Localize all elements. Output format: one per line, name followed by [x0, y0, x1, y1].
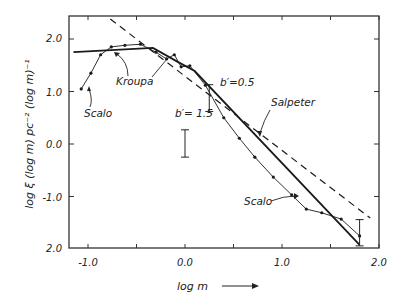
data-point [253, 156, 256, 159]
y-tick-label: 0.0 [46, 139, 62, 150]
y-tick-label: 2.0 [46, 243, 62, 254]
data-point [320, 211, 323, 214]
data-point [340, 217, 343, 220]
annotation-b-1.5: b′= 1.5 [175, 107, 213, 119]
data-point [305, 208, 308, 211]
data-point [180, 65, 183, 68]
data-point [173, 53, 176, 56]
annotation-b-0.5: b′=0.5 [220, 76, 255, 88]
annotation-scalo-left: Scalo [84, 107, 112, 119]
x-axis-arrow [222, 283, 259, 289]
annotation-scalo-right: Scalo [244, 195, 272, 207]
data-point [80, 87, 83, 90]
data-point [123, 44, 126, 47]
data-point [154, 51, 157, 54]
y-tick-label: 2.0 [46, 33, 62, 44]
y-tick-label: 1.0 [46, 87, 62, 98]
y-axis-title: log ξ (log m) pc⁻² (log m)⁻¹ [23, 59, 36, 208]
x-tick-label: 1.0 [274, 257, 290, 268]
y-tick-label: -1.0 [42, 192, 62, 203]
x-tick-label: 2.0 [371, 257, 387, 268]
data-point [222, 116, 225, 119]
data-point [89, 72, 92, 75]
x-tick-label: 0.0 [177, 257, 193, 268]
data-point [238, 137, 241, 140]
data-point [188, 64, 191, 67]
annotation-kroupa: Kroupa [116, 75, 153, 87]
series-scalo [81, 44, 359, 236]
data-point [99, 53, 102, 56]
imf-chart: -1.0 0.0 1.0 2.0 2.0 1.0 0.0 -1.0 2.0 lo… [0, 0, 402, 307]
data-point [139, 43, 142, 46]
x-axis-title: log m [177, 280, 208, 293]
annotation-salpeter: Salpeter [271, 96, 316, 108]
y-tick-labels: 2.0 1.0 0.0 -1.0 2.0 [42, 33, 62, 254]
data-point [272, 175, 275, 178]
data-point [204, 84, 207, 87]
x-tick-label: -1.0 [78, 257, 98, 268]
x-tick-labels: -1.0 0.0 1.0 2.0 [78, 257, 387, 268]
data-point [110, 45, 113, 48]
